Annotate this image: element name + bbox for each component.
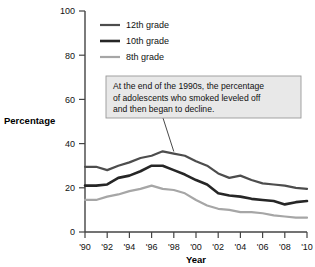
x-tick-label: '96: [146, 242, 158, 252]
x-tick-label: '06: [257, 242, 269, 252]
chart-legend: 12th grade10th grade8th grade: [100, 20, 169, 62]
data-series-layer: [85, 151, 307, 217]
x-tick-label: '08: [279, 242, 291, 252]
annotation-text-line-1: of adolescents who smoked leveled off: [113, 93, 261, 103]
y-tick-label: 20: [65, 183, 75, 193]
annotation-text-line-0: At the end of the 1990s, the percentage: [113, 81, 264, 91]
legend-label-1: 10th grade: [126, 36, 169, 46]
x-axis-tick-labels: '90'92'94'96'98'00'02'04'06'08'10: [79, 242, 313, 252]
x-tick-label: '94: [124, 242, 136, 252]
y-tick-label: 0: [70, 227, 75, 237]
y-tick-label: 100: [60, 6, 75, 16]
x-tick-label: '92: [101, 242, 113, 252]
x-tick-label: '02: [212, 242, 224, 252]
x-axis-title: Year: [186, 254, 206, 265]
legend-label-2: 8th grade: [126, 52, 164, 62]
x-tick-label: '10: [301, 242, 313, 252]
y-axis-ticks: [79, 11, 85, 232]
line-chart: 020406080100 '90'92'94'96'98'00'02'04'06…: [0, 0, 315, 267]
x-tick-label: '04: [235, 242, 247, 252]
y-tick-label: 40: [65, 139, 75, 149]
y-axis-tick-labels: 020406080100: [60, 6, 75, 237]
x-tick-label: '90: [79, 242, 91, 252]
legend-label-0: 12th grade: [126, 20, 169, 30]
series-line-0: [85, 151, 307, 189]
y-tick-label: 60: [65, 95, 75, 105]
y-tick-label: 80: [65, 51, 75, 61]
chart-canvas: 020406080100 '90'92'94'96'98'00'02'04'06…: [0, 0, 315, 267]
x-axis-ticks: [85, 232, 307, 238]
annotation-text-line-2: and then began to decline.: [113, 104, 214, 114]
x-tick-label: '98: [168, 242, 180, 252]
annotation-leader-line: [163, 118, 174, 152]
y-axis-title: Percentage: [4, 115, 55, 126]
x-tick-label: '00: [190, 242, 202, 252]
annotation-callout: At the end of the 1990s, the percentageo…: [106, 76, 301, 152]
